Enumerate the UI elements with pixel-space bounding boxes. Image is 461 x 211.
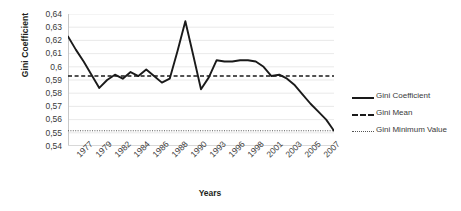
- x-tick-label: 2007: [322, 140, 342, 160]
- x-tick-label: 1984: [132, 140, 152, 160]
- x-tick-label: 2003: [284, 140, 304, 160]
- x-tick-label: 2001: [265, 140, 285, 160]
- dotted-line-key: [352, 131, 374, 135]
- legend-label: Gini Minimum Value: [376, 125, 447, 134]
- legend-label: Gini Mean: [376, 108, 412, 117]
- legend-item[interactable]: Gini Minimum Value: [352, 124, 460, 141]
- x-tick-label: 1996: [227, 140, 247, 160]
- chart-figure: Gini Coefficient 0,640,630,620,610,60,59…: [0, 0, 461, 211]
- solid-line-key: [352, 97, 374, 102]
- x-axis-title: Years: [150, 188, 270, 198]
- legend-label: Gini Coefficient: [376, 91, 430, 100]
- x-tick-label: 2005: [303, 140, 323, 160]
- x-tick-label: 1977: [75, 140, 95, 160]
- x-tick-label: 1990: [189, 140, 209, 160]
- legend-item[interactable]: Gini Coefficient: [352, 90, 460, 107]
- x-tick-label: 1998: [246, 140, 266, 160]
- legend-item[interactable]: Gini Mean: [352, 107, 460, 124]
- x-tick-label: 1982: [113, 140, 133, 160]
- x-tick-label: 1986: [151, 140, 171, 160]
- chart-legend: Gini CoefficientGini MeanGini Minimum Va…: [352, 90, 460, 141]
- x-tick-label: 1988: [170, 140, 190, 160]
- dashed-line-key: [352, 114, 374, 119]
- x-tick-label: 1979: [94, 140, 114, 160]
- x-tick-label: 1993: [208, 140, 228, 160]
